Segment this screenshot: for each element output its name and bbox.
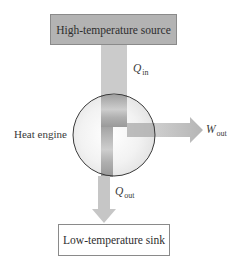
heat-engine-label-text: Heat engine: [14, 128, 67, 140]
q-in-subscript: in: [142, 68, 148, 77]
w-out-label: Wout: [206, 123, 227, 138]
q-in-label: Qin: [133, 62, 149, 77]
q-out-subscript: out: [124, 191, 134, 200]
heat-out-arrow: [92, 176, 116, 223]
heat-engine-diagram: High-temperature source Low-temperature …: [0, 0, 237, 269]
high-temperature-source-box: High-temperature source: [50, 14, 177, 45]
w-out-symbol: W: [206, 123, 216, 135]
q-out-label: Qout: [115, 185, 135, 200]
high-temperature-source-label: High-temperature source: [56, 24, 171, 36]
w-out-subscript: out: [217, 129, 227, 138]
heat-engine-label: Heat engine: [14, 128, 67, 140]
low-temperature-sink-label: Low-temperature sink: [63, 234, 165, 246]
heat-in-arrow: [101, 45, 127, 97]
q-in-symbol: Q: [133, 62, 141, 74]
q-out-symbol: Q: [115, 185, 123, 197]
low-temperature-sink-box: Low-temperature sink: [58, 224, 170, 256]
